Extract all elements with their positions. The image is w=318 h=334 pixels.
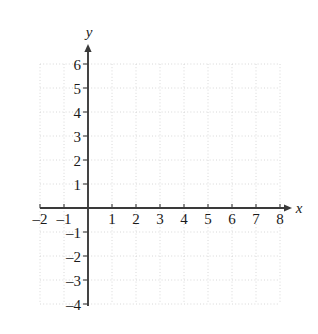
y-tick-label: –2 [65,249,81,265]
x-tick-label: 1 [108,211,116,227]
x-tick-label: 7 [252,211,260,227]
y-tick-label: –1 [65,225,81,241]
x-tick-label: 2 [132,211,140,227]
y-tick-label: 2 [74,153,82,169]
y-tick-label: 5 [74,81,82,97]
y-tick-label: 6 [74,57,82,73]
y-tick-label: 3 [74,129,82,145]
figure-background [0,0,318,334]
x-tick-label: –2 [32,211,48,227]
y-tick-label: 4 [74,105,82,121]
x-tick-label: 8 [276,211,284,227]
x-axis-label: x [295,200,303,216]
y-tick-label: 1 [74,177,82,193]
x-tick-label: 6 [228,211,236,227]
x-tick-label: 3 [156,211,164,227]
y-axis-label: y [84,24,93,40]
y-tick-label: –3 [65,273,81,289]
coordinate-plane-figure: –2–112345678 654321–1–2–3–4 x y [0,0,318,334]
x-tick-label: 4 [180,211,188,227]
coordinate-plane-svg: –2–112345678 654321–1–2–3–4 x y [0,0,318,334]
y-tick-label: –4 [65,297,82,313]
x-tick-label: 5 [204,211,212,227]
